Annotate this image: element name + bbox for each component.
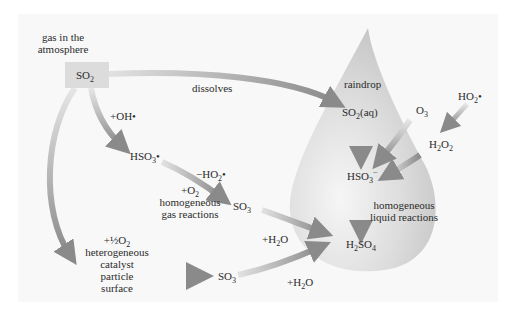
- label-h2o2: H2O2: [429, 138, 453, 150]
- label-plus-h2o-upper: +H2O: [262, 233, 288, 245]
- label-o3: O3: [416, 104, 428, 116]
- label-minus-ho2: −HO2•: [196, 168, 226, 180]
- label-so2-aq: SO2(aq): [342, 106, 378, 118]
- label-heterogeneous: +½O2 heterogeneous catalyst particle sur…: [80, 234, 154, 294]
- label-plus-oh: +OH•: [110, 110, 136, 122]
- label-gas-in-atmosphere: gas in the atmosphere: [28, 31, 98, 55]
- label-so3-lower: SO3: [218, 270, 236, 282]
- label-homogeneous-liquid: homogeneous liquid reactions: [370, 199, 438, 223]
- label-homogeneous-gas: +O2 homogeneous gas reactions: [150, 184, 230, 220]
- acid-rain-diagram: gas in the atmosphere SO2 dissolves rain…: [0, 0, 511, 314]
- label-h2so4: H2SO4: [346, 238, 376, 250]
- label-hso3-ion: HSO3−: [347, 170, 378, 182]
- label-plus-h2o-lower: +H2O: [287, 276, 313, 288]
- label-ho2-radical: HO2•: [458, 90, 482, 102]
- label-so3-upper: SO3: [233, 200, 251, 212]
- label-raindrop: raindrop: [344, 78, 381, 90]
- label-so2-gas: SO2: [76, 69, 94, 81]
- label-hso3-radical: HSO3•: [130, 150, 160, 162]
- label-dissolves: dissolves: [192, 82, 232, 94]
